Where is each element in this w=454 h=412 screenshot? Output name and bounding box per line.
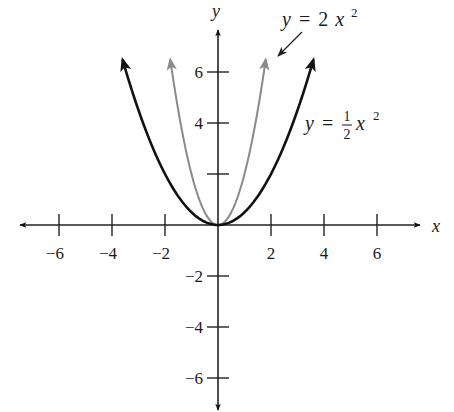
axes: x y — [20, 1, 440, 410]
svg-text:y =: y = — [303, 112, 333, 135]
eq1-coef: 2 — [318, 8, 328, 30]
svg-text:x 2: x 2 — [355, 108, 379, 134]
x-tick-label: 2 — [267, 244, 276, 263]
svg-text:y = 2 x: y = 2 x 2 — [280, 5, 358, 31]
annotation-y-2x-squared: y = 2 x 2 — [278, 5, 358, 56]
y-tick-label: 4 — [195, 114, 204, 133]
y-tick-label: −4 — [185, 318, 204, 337]
x-tick-label: 4 — [320, 244, 329, 263]
eq2-equals: = — [322, 112, 333, 134]
y-tick-label: −6 — [185, 369, 203, 388]
x-tick-label: 6 — [373, 244, 382, 263]
eq1-exp: 2 — [351, 5, 358, 20]
eq2-numerator: 1 — [344, 109, 351, 124]
eq1-lhs: y — [280, 8, 291, 31]
x-tick-label: −2 — [152, 244, 170, 263]
parabola-chart: x y −6−4−2246 −6−4−246 y = 2 x 2 y = 1 2… — [0, 0, 454, 412]
x-axis-label: x — [431, 216, 440, 236]
x-tick-label: −4 — [99, 244, 118, 263]
eq2-exp: 2 — [373, 108, 380, 123]
annotation-y-half-x-squared: y = 1 2 x 2 — [303, 108, 379, 142]
eq2-var: x — [355, 112, 365, 134]
pointer-arrow — [278, 32, 302, 56]
eq1-equals: = — [299, 8, 310, 30]
y-axis-label: y — [210, 1, 220, 21]
eq2-denominator: 2 — [344, 127, 351, 142]
y-tick-label: 6 — [195, 63, 204, 82]
eq1-var: x — [334, 8, 344, 30]
x-tick-label: −6 — [46, 244, 64, 263]
eq2-lhs: y — [303, 112, 314, 135]
x-ticks: −6−4−2246 — [46, 214, 381, 263]
y-tick-label: −2 — [185, 267, 203, 286]
